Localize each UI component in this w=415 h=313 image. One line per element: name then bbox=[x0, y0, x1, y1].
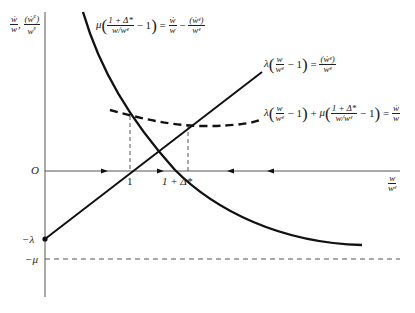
minus-mu-label: −μ bbox=[25, 254, 38, 265]
arrow-right-icon bbox=[101, 169, 108, 174]
decreasing-curve bbox=[83, 12, 362, 245]
x-tick-1-plus-delta: 1 + Δ* bbox=[162, 176, 192, 187]
y-axis-label: ẇw, (ẇe)we bbox=[10, 13, 40, 37]
decreasing-curve-label: μ(1 + Δ*w/wᵉ − 1) = ẇw − (ẇᵉ)wᵉ bbox=[96, 16, 205, 36]
arrow-left-icon bbox=[227, 169, 234, 174]
minus-lambda-point bbox=[42, 236, 47, 241]
dashed-curve-label: λ(wwᵉ − 1) + μ(1 + Δ*w/wᵉ − 1) = ẇw bbox=[264, 104, 400, 124]
origin-label: O bbox=[31, 165, 39, 176]
increasing-line-label: λ(wwᵉ − 1) = (ẇᵉ)wᵉ bbox=[264, 55, 336, 75]
minus-lambda-label: −λ bbox=[22, 234, 34, 245]
x-tick-1: 1 bbox=[127, 176, 133, 187]
x-axis-label: wwᵉ bbox=[387, 174, 397, 194]
phase-diagram-canvas bbox=[0, 0, 415, 313]
arrow-left-icon bbox=[267, 169, 274, 174]
arrow-right-icon bbox=[157, 169, 164, 174]
increasing-line bbox=[45, 72, 262, 239]
